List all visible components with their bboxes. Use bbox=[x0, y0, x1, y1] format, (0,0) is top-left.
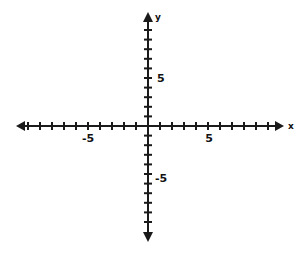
coordinate-plane-svg: -555-5 x y bbox=[0, 0, 302, 253]
tick-label-y-5: 5 bbox=[157, 72, 165, 85]
y-axis-down-arrow-icon bbox=[143, 232, 153, 242]
y-axis-label: y bbox=[155, 12, 161, 22]
x-axis-right-arrow-icon bbox=[275, 121, 284, 131]
x-axis-label: x bbox=[288, 121, 294, 131]
x-axis-left-arrow-icon bbox=[16, 121, 25, 131]
coordinate-plane-figure: -555-5 x y bbox=[0, 0, 302, 253]
y-axis-up-arrow-icon bbox=[143, 12, 153, 22]
tick-label-y--5: -5 bbox=[155, 172, 167, 185]
tick-label-x-5: 5 bbox=[205, 132, 213, 145]
tick-label-x--5: -5 bbox=[82, 132, 94, 145]
